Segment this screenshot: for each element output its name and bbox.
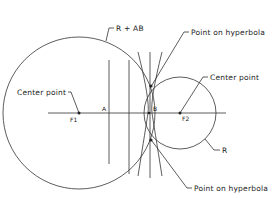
label-r-plus-ab: R + AB [116, 24, 144, 33]
f1-point [78, 112, 81, 115]
hyperbola-point-bottom [149, 138, 152, 141]
label-a: A [102, 105, 107, 112]
label-point-on-hyperbola-top: Point on hyperbola [191, 28, 265, 37]
label-r: R [222, 146, 227, 155]
label-b: B [153, 105, 157, 112]
label-center-point-right: Center point [210, 73, 259, 82]
label-point-on-hyperbola-bottom: Point on hyperbola [194, 184, 268, 193]
leader-r-plus-ab [106, 28, 114, 41]
leader-r [205, 139, 220, 150]
label-f1: F1 [70, 116, 77, 123]
leader-center-left [68, 92, 79, 113]
hyperbola-diagram: R + AB Point on hyperbola Center point C… [0, 0, 272, 198]
diagram-canvas: R + AB Point on hyperbola Center point C… [0, 0, 272, 198]
b-point [148, 112, 151, 115]
hyperbola-branch [138, 52, 148, 176]
label-center-point-left: Center point [17, 88, 66, 97]
label-f2: F2 [182, 115, 189, 122]
hyperbola-point-top [149, 84, 152, 87]
leader-center-right [180, 77, 208, 113]
